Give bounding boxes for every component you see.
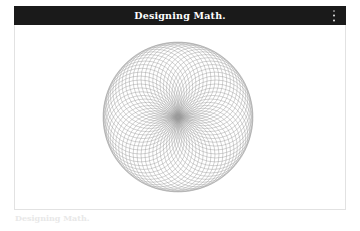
window-titlebar: Designing Math. (14, 6, 346, 25)
kebab-menu-icon[interactable] (329, 9, 339, 22)
spirograph-svg (15, 25, 345, 209)
kebab-dot-2 (333, 15, 335, 17)
window-title: Designing Math. (134, 11, 226, 21)
artwork-canvas[interactable] (15, 25, 345, 209)
footer-caption: Designing Math. (15, 214, 90, 223)
app-root: Designing Math. Designing Math. (0, 0, 360, 231)
kebab-dot-3 (333, 19, 335, 21)
kebab-dot-1 (333, 10, 335, 12)
